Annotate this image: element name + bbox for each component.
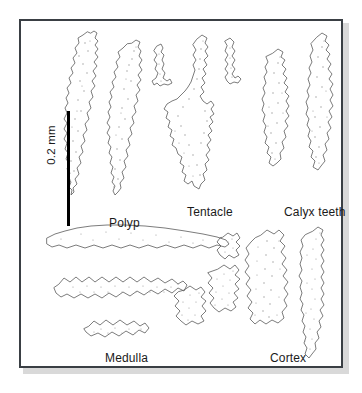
sclerite-cortex-5	[299, 227, 324, 358]
sclerite-calyx-1	[262, 49, 289, 166]
sclerite-tentacle-3	[225, 38, 241, 84]
figure-frame: 0.2 mm Polyp Tentacle Calyx teeth Medull…	[19, 19, 343, 368]
group-label-medulla: Medulla	[105, 351, 148, 365]
group-label-polyp: Polyp	[109, 216, 140, 230]
sclerite-cortex-2	[208, 265, 240, 312]
sclerite-cortex-4	[245, 230, 288, 324]
sclerite-calyx-2	[306, 33, 333, 170]
sclerite-tentacle-2	[164, 35, 214, 189]
figure-root: 0.2 mm Polyp Tentacle Calyx teeth Medull…	[0, 0, 362, 393]
sclerite-cortex-1	[217, 233, 240, 259]
group-label-calyx-teeth: Calyx teeth	[284, 205, 346, 219]
sclerite-polyp-2	[107, 40, 142, 195]
sclerite-medulla-2	[54, 277, 187, 298]
sclerite-cortex-3	[174, 286, 206, 325]
sclerite-tentacle-1	[152, 44, 172, 86]
sclerite-medulla-3	[84, 320, 149, 337]
group-label-tentacle: Tentacle	[187, 205, 233, 219]
scale-bar-line	[67, 111, 70, 226]
group-label-cortex: Cortex	[270, 351, 306, 365]
scale-bar-label: 0.2 mm	[45, 115, 57, 175]
